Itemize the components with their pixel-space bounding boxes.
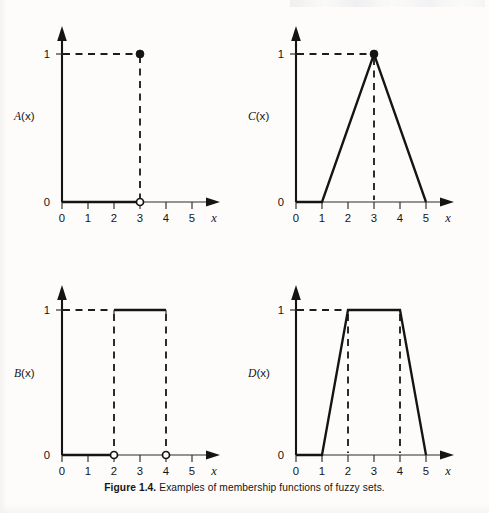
x-tick-label-0-c: 0 (293, 212, 299, 224)
x-tick-label-2-d: 2 (345, 465, 351, 477)
x-axis-name-c: x (444, 211, 451, 225)
x-tick-label-2-a: 2 (111, 212, 117, 224)
x-tick-label-1-c: 1 (319, 212, 325, 224)
y-label-zero-b: 0 (44, 449, 50, 461)
scan-edge-bottom (0, 504, 489, 513)
scan-edge-left (0, 0, 7, 513)
fn-arg-d: (x) (256, 366, 270, 379)
x-tick-label-1-a: 1 (85, 212, 91, 224)
marker-open-right-b (163, 452, 170, 459)
x-tick-label-4-a: 4 (163, 212, 169, 224)
y-label-zero-d: 0 (278, 449, 284, 461)
y-label-one-a: 1 (44, 48, 50, 60)
marker-filled-c (370, 50, 378, 58)
fn-arg-c: (x) (256, 109, 270, 122)
y-axis-name-b: B(x) (14, 366, 35, 380)
x-tick-label-4-b: 4 (163, 465, 169, 477)
x-tick-label-3-d: 3 (371, 465, 377, 477)
y-axis-name-c: C(x) (248, 109, 269, 123)
x-tick-label-5-b: 5 (189, 465, 195, 477)
figure-page: 1 0 0 1 2 3 4 5 x A(x) (0, 0, 489, 513)
x-tick-label-3-a: 3 (137, 212, 143, 224)
x-tick-label-5-d: 5 (423, 465, 429, 477)
y-axis-name-a: A(x) (13, 109, 35, 123)
x-tick-label-5-a: 5 (189, 212, 195, 224)
x-tick-label-1-b: 1 (85, 465, 91, 477)
y-label-one-c: 1 (278, 48, 284, 60)
curve-c (296, 54, 426, 202)
chart-panel-c: 1 0 0 1 2 3 4 5 x C(x) (248, 22, 463, 222)
fn-letter-b: B (14, 367, 21, 380)
y-axis-a (57, 26, 67, 202)
marker-open-left-b (111, 452, 118, 459)
chart-panel-d: 1 0 0 1 2 3 4 5 x D(x) (248, 281, 463, 481)
y-axis-c (291, 26, 301, 202)
x-tick-label-3-b: 3 (137, 465, 143, 477)
figure-caption-body: Examples of membership functions of fuzz… (159, 482, 385, 493)
chart-d-svg: 1 0 0 1 2 3 4 5 x D(x) (248, 281, 463, 481)
chart-a-svg: 1 0 0 1 2 3 4 5 x A(x) (14, 22, 229, 222)
y-label-zero-c: 0 (278, 196, 284, 208)
x-tick-label-3-c: 3 (371, 212, 377, 224)
curve-d (296, 310, 426, 455)
figure-caption: Figure 1.4. Examples of membership funct… (0, 482, 489, 493)
fn-arg-a: (x) (21, 109, 35, 122)
x-tick-label-0-d: 0 (293, 465, 299, 477)
fn-arg-b: (x) (21, 366, 35, 379)
y-label-one-d: 1 (278, 304, 284, 316)
x-tick-label-4-c: 4 (397, 212, 403, 224)
chart-b-svg: 1 0 0 1 2 3 4 5 x B(x) (14, 281, 229, 481)
y-axis-name-d: D(x) (247, 366, 270, 380)
x-axis-name-b: x (210, 464, 217, 478)
x-axis-name-d: x (444, 464, 451, 478)
marker-filled-a (136, 50, 144, 58)
x-tick-label-0-a: 0 (59, 212, 65, 224)
y-label-one-b: 1 (44, 304, 50, 316)
x-tick-label-5-c: 5 (423, 212, 429, 224)
x-axis-name-a: x (210, 211, 217, 225)
x-tick-label-2-c: 2 (345, 212, 351, 224)
x-tick-label-2-b: 2 (111, 465, 117, 477)
x-tick-label-4-d: 4 (397, 465, 403, 477)
figure-caption-label: Figure 1.4. (104, 482, 156, 493)
chart-c-svg: 1 0 0 1 2 3 4 5 x C(x) (248, 22, 463, 222)
page-header-scan-artifact (290, 0, 485, 7)
chart-panel-b: 1 0 0 1 2 3 4 5 x B(x) (14, 281, 229, 481)
y-label-zero-a: 0 (44, 196, 50, 208)
marker-open-a (137, 199, 144, 206)
x-tick-label-1-d: 1 (319, 465, 325, 477)
x-tick-label-0-b: 0 (59, 465, 65, 477)
chart-panel-a: 1 0 0 1 2 3 4 5 x A(x) (14, 22, 229, 222)
